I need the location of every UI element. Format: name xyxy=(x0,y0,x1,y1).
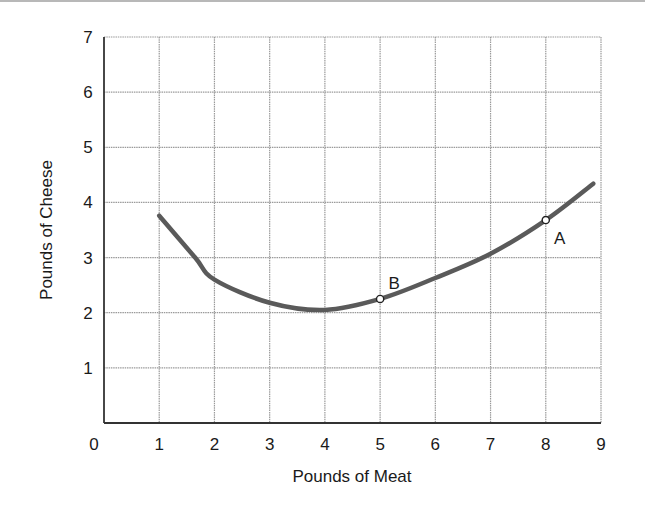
y-tick-label: 4 xyxy=(83,193,92,212)
point-a-label: A xyxy=(554,229,566,248)
x-tick-label: 6 xyxy=(431,435,440,454)
x-tick-label: 5 xyxy=(375,435,384,454)
y-tick-label: 3 xyxy=(83,249,92,268)
chart: 0123456789 1234567 AB Pounds of Meat Pou… xyxy=(0,0,645,506)
point-b-label: B xyxy=(388,274,399,293)
x-tick-label: 1 xyxy=(154,435,163,454)
y-tick-labels: 1234567 xyxy=(83,28,92,378)
y-tick-label: 7 xyxy=(83,28,92,47)
point-b-marker xyxy=(377,295,384,302)
x-tick-labels: 0123456789 xyxy=(89,435,605,454)
y-tick-label: 1 xyxy=(83,359,92,378)
x-tick-label: 4 xyxy=(320,435,329,454)
x-tick-label: 0 xyxy=(89,435,98,454)
axes xyxy=(104,37,601,423)
x-tick-label: 9 xyxy=(596,435,605,454)
grid xyxy=(104,37,601,423)
y-tick-label: 6 xyxy=(83,83,92,102)
x-tick-label: 3 xyxy=(265,435,274,454)
x-tick-label: 8 xyxy=(541,435,550,454)
point-a-marker xyxy=(542,216,549,223)
x-tick-label: 7 xyxy=(486,435,495,454)
y-tick-label: 2 xyxy=(83,304,92,323)
x-axis-label: Pounds of Meat xyxy=(292,467,411,486)
x-tick-label: 2 xyxy=(210,435,219,454)
y-tick-label: 5 xyxy=(83,138,92,157)
y-axis-label: Pounds of Cheese xyxy=(37,160,56,300)
